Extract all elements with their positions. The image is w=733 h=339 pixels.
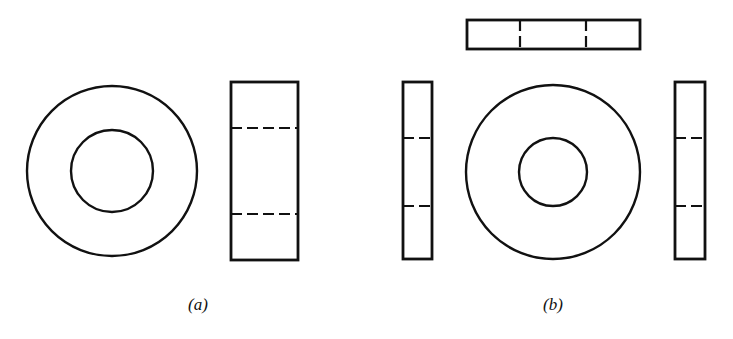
outline-rect [675,82,705,259]
inner-circle [519,138,587,206]
top-view [467,20,640,49]
inner-circle [71,130,153,212]
side-view [231,82,298,260]
panel-a [27,82,298,260]
caption-a: (a) [188,295,208,315]
left-side-view [403,82,432,259]
panel-b [403,20,705,259]
orthographic-projection-diagram [0,0,733,339]
outer-circle [27,86,197,256]
right-side-view [675,82,705,259]
front-view-washer [27,86,197,256]
outline-rect [403,82,432,259]
outer-circle [466,85,640,259]
front-view-washer [466,85,640,259]
caption-b: (b) [543,295,563,315]
outline-rect [231,82,298,260]
outline-rect [467,20,640,49]
